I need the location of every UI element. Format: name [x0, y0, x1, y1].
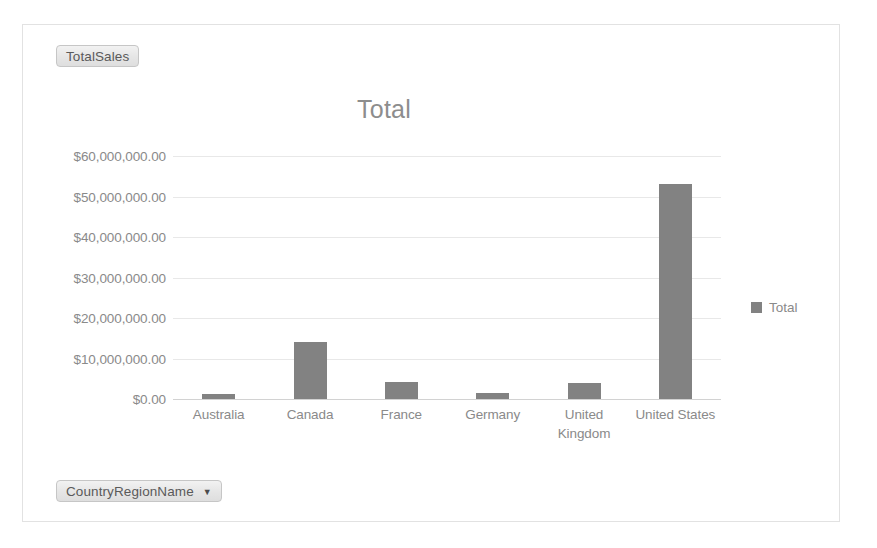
y-axis-tick-label: $20,000,000.00	[74, 311, 166, 326]
y-axis-tick-label: $60,000,000.00	[74, 149, 166, 164]
legend-label-total: Total	[769, 300, 798, 315]
chart-title: Total	[23, 95, 841, 124]
x-axis-tick-label: Canada	[264, 405, 356, 424]
pivot-field-button-totalsales-label: TotalSales	[66, 49, 129, 64]
y-axis-tick-label: $50,000,000.00	[74, 189, 166, 204]
bar[interactable]	[385, 382, 418, 399]
bar[interactable]	[476, 393, 509, 399]
bar-series-total[interactable]	[173, 156, 721, 399]
x-axis-tick-label: France	[355, 405, 447, 424]
bar[interactable]	[568, 383, 601, 399]
y-axis-tick-label: $0.00	[133, 392, 166, 407]
x-axis-tick-label: Australia	[173, 405, 265, 424]
x-axis-tick-label: Germany	[447, 405, 539, 424]
bar[interactable]	[202, 394, 235, 399]
x-axis-tick-label: United Kingdom	[538, 405, 630, 443]
pivot-field-button-countryregionname-label: CountryRegionName	[66, 484, 194, 499]
y-axis-tick-label: $10,000,000.00	[74, 351, 166, 366]
x-axis-tick-label: United States	[629, 405, 721, 424]
y-axis-tick-label: $40,000,000.00	[74, 230, 166, 245]
pivot-chart-frame[interactable]: TotalSales Total $0.00$10,000,000.00$20,…	[22, 24, 840, 522]
legend: Total	[751, 300, 798, 315]
x-axis: AustraliaCanadaFranceGermanyUnited Kingd…	[173, 405, 721, 461]
y-axis-tick-label: $30,000,000.00	[74, 270, 166, 285]
y-axis: $0.00$10,000,000.00$20,000,000.00$30,000…	[33, 156, 166, 399]
chevron-down-icon[interactable]: ▼	[203, 488, 212, 497]
pivot-field-button-countryregionname[interactable]: CountryRegionName ▼	[56, 480, 222, 502]
pivot-field-button-totalsales[interactable]: TotalSales	[56, 45, 139, 67]
bar[interactable]	[294, 342, 327, 399]
legend-swatch-total	[751, 302, 762, 313]
bar[interactable]	[659, 184, 692, 399]
gridline	[173, 399, 721, 400]
